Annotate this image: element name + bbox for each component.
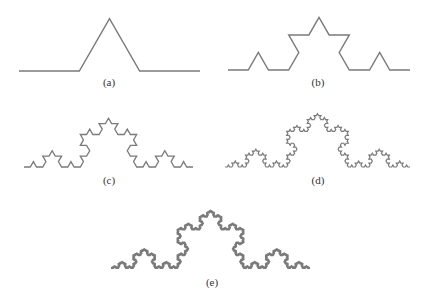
koch-curve-d	[225, 114, 410, 167]
panel-label-d: (d)	[312, 174, 325, 186]
panel-label-a: (a)	[103, 76, 115, 88]
koch-figure	[0, 0, 428, 299]
panel-label-c: (c)	[103, 174, 115, 186]
koch-curve-b	[228, 17, 410, 70]
panel-label-b: (b)	[312, 76, 325, 88]
koch-curve-e	[111, 211, 310, 268]
koch-curve-a	[19, 19, 200, 71]
panel-label-e: (e)	[206, 276, 218, 288]
koch-curve-c	[24, 118, 193, 167]
